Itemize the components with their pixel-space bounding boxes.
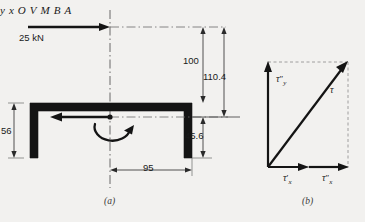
- dimension-95-label: 95: [143, 163, 154, 173]
- tau-y-double-prime-label: τ″y: [276, 73, 286, 87]
- channel-cross-section: [30, 103, 192, 158]
- shear-force-arrow: [50, 113, 110, 122]
- caption-a: (a): [104, 196, 115, 206]
- tau-x-prime-label: τ′x: [283, 172, 292, 186]
- dimension-100-label: 100: [183, 56, 199, 66]
- dimension-110-4-label: 110.4: [203, 72, 226, 82]
- tau-x-double-prime-label: τ″x: [322, 172, 332, 186]
- figure-vector-layer: [0, 0, 365, 222]
- caption-b: (b): [302, 196, 313, 206]
- tau-resultant-label: τ: [330, 84, 334, 95]
- tau-x-double-prime-vector: [309, 163, 349, 171]
- figure-container: 25 kN y x O V M B A 100 110.4 45.6 56 95…: [0, 0, 365, 222]
- dimension-45-6-label: 45.6: [185, 131, 204, 141]
- applied-load-label: 25 kN: [19, 33, 44, 43]
- moment-curved-arrow: [95, 124, 134, 141]
- dimension-56-label: 56: [1, 126, 12, 136]
- tau-x-prime-vector: [268, 163, 309, 171]
- dimension-100-line: [200, 27, 205, 103]
- applied-load-arrow: [28, 23, 110, 31]
- tau-y-double-prime-vector: [264, 61, 272, 167]
